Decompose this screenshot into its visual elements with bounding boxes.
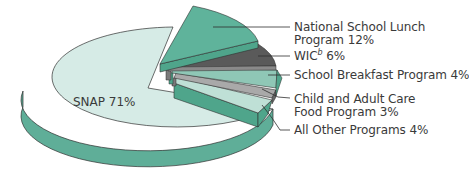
label-cacfp: Child and Adult Care Food Program 3% xyxy=(294,93,415,119)
label-other: All Other Programs 4% xyxy=(294,124,428,137)
slice-sbp-rim xyxy=(276,70,282,96)
label-wic-value: 6% xyxy=(322,49,345,63)
label-wic: WICb 6% xyxy=(294,50,345,63)
label-nslp: National School Lunch Program 12% xyxy=(294,21,425,47)
label-cacfp-line2: Food Program 3% xyxy=(294,106,415,119)
label-nslp-line2: Program 12% xyxy=(294,34,425,47)
label-snap: SNAP 71% xyxy=(73,95,136,109)
label-wic-main: WIC xyxy=(294,49,317,63)
slice-wic-band xyxy=(168,66,276,71)
label-sbp: School Breakfast Program 4% xyxy=(294,69,469,82)
